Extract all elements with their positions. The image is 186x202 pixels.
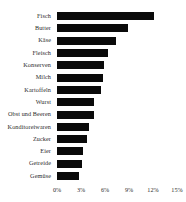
category-label: Gemüse	[0, 170, 54, 182]
bar-chart: FischButterKäseFleischKonservenMilchKart…	[0, 0, 186, 202]
bar	[57, 123, 89, 131]
x-tick-label: 0%	[53, 186, 61, 193]
category-label: Konserven	[0, 59, 54, 71]
category-label: Getreide	[0, 158, 54, 170]
category-label: Konditoreiwaren	[0, 121, 54, 133]
bar-row	[57, 22, 177, 34]
bar-row	[57, 108, 177, 120]
bar-row	[57, 10, 177, 22]
bar	[57, 49, 108, 57]
bar-row	[57, 71, 177, 83]
bar-row	[57, 158, 177, 170]
x-tick-label: 6%	[101, 186, 109, 193]
bar-row	[57, 96, 177, 108]
bar	[57, 160, 82, 168]
bar-row	[57, 59, 177, 71]
bar-row	[57, 121, 177, 133]
bar-row	[57, 84, 177, 96]
category-label-column: FischButterKäseFleischKonservenMilchKart…	[0, 10, 54, 182]
plot-area	[57, 10, 177, 182]
bar-row	[57, 47, 177, 59]
bar	[57, 37, 116, 45]
category-label: Fleisch	[0, 47, 54, 59]
bar-row	[57, 35, 177, 47]
category-label: Kartoffeln	[0, 84, 54, 96]
bar	[57, 86, 101, 94]
x-axis-line	[57, 182, 177, 183]
x-axis-tick-labels: 0%3%6%9%12%15%	[0, 186, 186, 200]
bar	[57, 24, 128, 32]
bar	[57, 172, 79, 180]
bar	[57, 12, 154, 20]
x-tick-label: 12%	[147, 186, 158, 193]
bar	[57, 61, 104, 69]
category-label: Butter	[0, 22, 54, 34]
bar	[57, 111, 94, 119]
x-tick-label: 3%	[77, 186, 85, 193]
category-label: Obst und Beeren	[0, 108, 54, 120]
category-label: Eier	[0, 145, 54, 157]
bar	[57, 147, 83, 155]
x-tick-label: 15%	[171, 186, 182, 193]
category-label: Käse	[0, 35, 54, 47]
category-label: Milch	[0, 71, 54, 83]
category-label: Zucker	[0, 133, 54, 145]
bar-row	[57, 145, 177, 157]
bar-row	[57, 170, 177, 182]
category-label: Fisch	[0, 10, 54, 22]
bar	[57, 135, 87, 143]
bar	[57, 74, 103, 82]
bar-row	[57, 133, 177, 145]
bar	[57, 98, 94, 106]
x-tick-label: 9%	[125, 186, 133, 193]
category-label: Wurst	[0, 96, 54, 108]
